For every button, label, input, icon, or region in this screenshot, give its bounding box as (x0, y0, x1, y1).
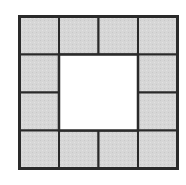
tile-r1-c3 (138, 55, 178, 93)
tile-r0-c3 (138, 17, 178, 55)
tile-r3-c0 (20, 131, 60, 169)
tile-r0-c2 (99, 17, 139, 55)
tile-frame-diagram (0, 0, 186, 185)
center-hole (59, 55, 138, 131)
tile-r2-c0 (20, 93, 60, 131)
tile-r0-c0 (20, 17, 60, 55)
tile-r0-c1 (59, 17, 99, 55)
tile-r3-c1 (59, 131, 99, 169)
tile-r3-c2 (99, 131, 139, 169)
tile-r2-c3 (138, 93, 178, 131)
tile-r3-c3 (138, 131, 178, 169)
tile-r1-c0 (20, 55, 60, 93)
